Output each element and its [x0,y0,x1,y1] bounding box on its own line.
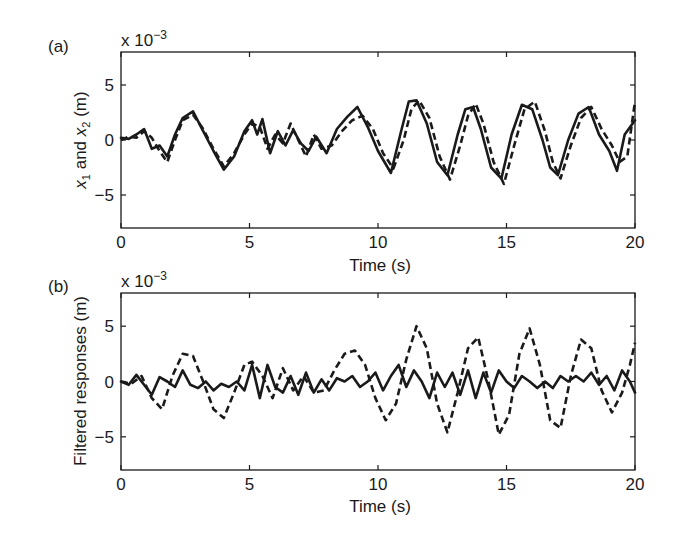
y-tick-label: 0 [105,373,114,392]
x-axis-label: Time (s) [349,256,411,275]
multiplier-label: x 10−3 [121,28,167,50]
svg-text:x 10−3: x 10−3 [121,269,167,291]
chart-panel-a: x 10−3 05101520−505 Time (s) x1 and x2 (… [71,28,644,275]
panel-b-label: (b) [48,277,69,296]
x-tick-label: 20 [626,233,645,252]
x-tick-label: 0 [116,475,125,494]
x-tick-label: 15 [497,475,516,494]
x-tick-label: 5 [245,233,254,252]
svg-text:x 10−3: x 10−3 [121,28,167,50]
y-axis-label: x1 and x2 (m) [71,91,92,189]
x-axis-label: Time (s) [349,497,411,516]
y-tick-label: −5 [95,428,114,447]
y-tick-label: −5 [95,186,114,205]
multiplier-label: x 10−3 [121,269,167,291]
y-tick-label: 0 [105,131,114,150]
y-tick-label: 5 [105,317,114,336]
tick-labels: 05101520−505 [95,317,645,494]
y-axis-label: Filtered responses (m) [71,296,90,466]
x-tick-label: 10 [369,233,388,252]
x-tick-label: 10 [369,475,388,494]
chart-panel-b: x 10−3 05101520−505 Time (s) Filtered re… [71,269,644,516]
series-lines [121,326,635,434]
x-tick-label: 0 [116,233,125,252]
x-tick-label: 20 [626,475,645,494]
x-tick-label: 15 [497,233,516,252]
x-tick-label: 5 [245,475,254,494]
panel-a-label: (a) [48,37,69,56]
figure: (a) (b) x 10−3 05101520−505 Time (s) x1 … [0,0,675,546]
y-tick-label: 5 [105,76,114,95]
series-lines [121,100,635,184]
series-line-dashed [121,100,635,184]
